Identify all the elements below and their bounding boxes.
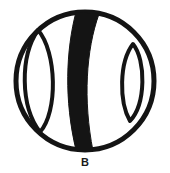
figure-panel: B	[0, 0, 170, 173]
figure-label: B	[0, 156, 170, 168]
figure-diagram	[0, 0, 170, 173]
